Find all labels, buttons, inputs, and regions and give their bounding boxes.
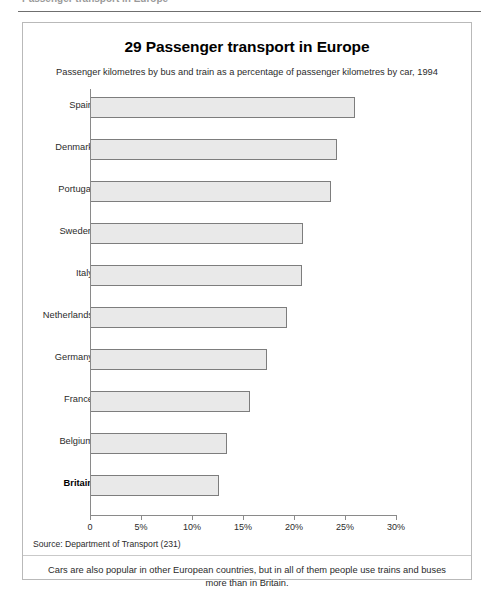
x-axis-tick [192, 515, 193, 520]
x-axis-tick-label: 30% [387, 522, 405, 532]
bar [90, 475, 219, 496]
x-axis-tick [90, 515, 91, 520]
bar-category-label: Netherlands [0, 310, 93, 320]
x-axis-tick [345, 515, 346, 520]
x-axis-tick [141, 515, 142, 520]
bar [90, 223, 303, 244]
bar [90, 433, 227, 454]
bar [90, 307, 287, 328]
caption-divider [23, 555, 471, 556]
bar [90, 265, 302, 286]
header-divider-rule [18, 11, 481, 12]
chart-subtitle: Passenger kilometres by bus and train as… [23, 67, 471, 77]
cut-off-header-text: Passenger transport in Europe [22, 0, 168, 4]
bar [90, 391, 250, 412]
x-axis-tick-label: 25% [336, 522, 354, 532]
bar-category-label: France [0, 394, 93, 404]
x-axis-tick-label: 15% [234, 522, 252, 532]
plot-area: SpainDenmarkPortugalSwedenItalyNetherlan… [23, 89, 471, 519]
x-axis-tick [294, 515, 295, 520]
x-axis-tick [243, 515, 244, 520]
figure-caption: Cars are also popular in other European … [45, 564, 449, 590]
y-axis-line [90, 89, 91, 515]
bar-category-label: Germany [0, 352, 93, 362]
bar-category-label: Denmark [0, 142, 93, 152]
bar [90, 349, 267, 370]
x-axis-tick-label: 20% [285, 522, 303, 532]
bar-category-label: Italy [0, 268, 93, 278]
bar-category-label: Belgium [0, 436, 93, 446]
x-axis-tick-label: 5% [134, 522, 147, 532]
page-top-strip: Passenger transport in Europe [0, 0, 497, 14]
bar [90, 139, 337, 160]
source-note: Source: Department of Transport (231) [33, 539, 181, 549]
x-axis-tick [396, 515, 397, 520]
bar-category-label: Sweden [0, 226, 93, 236]
bar [90, 181, 331, 202]
chart-title: 29 Passenger transport in Europe [23, 38, 471, 56]
x-axis-tick-label: 0 [87, 522, 92, 532]
bar [90, 97, 355, 118]
figure-container: 29 Passenger transport in Europe Passeng… [22, 22, 472, 580]
bar-category-label: Spain [0, 100, 93, 110]
x-axis-tick-label: 10% [183, 522, 201, 532]
bar-category-label: Britain [0, 478, 93, 488]
bar-category-label: Portugal [0, 184, 93, 194]
